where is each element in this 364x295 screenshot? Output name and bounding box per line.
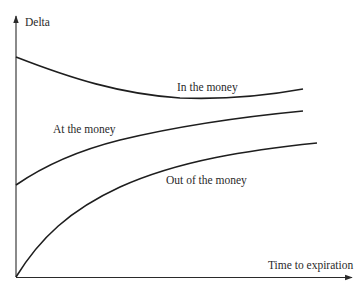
delta-vs-time-chart: [0, 0, 364, 295]
out-of-the-money-curve: [16, 143, 317, 277]
at-the-money-label: At the money: [53, 124, 116, 136]
out-of-the-money-label: Out of the money: [166, 175, 247, 187]
x-axis-label: Time to expiration: [268, 260, 353, 272]
in-the-money-curve: [16, 57, 303, 98]
y-axis-label: Delta: [25, 17, 50, 29]
in-the-money-label: In the money: [177, 82, 238, 94]
